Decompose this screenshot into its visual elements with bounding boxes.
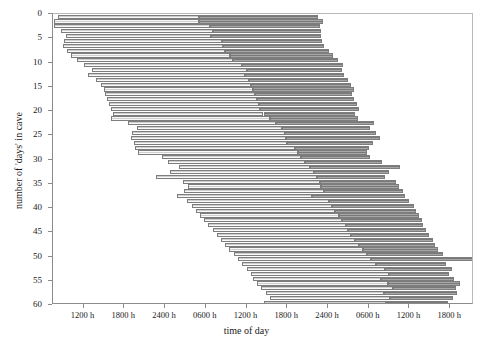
wake-segment (61, 29, 212, 33)
y-axis-tick (48, 207, 52, 208)
wake-segment (253, 277, 381, 281)
sleep-segment (332, 204, 413, 208)
y-axis-tick-label: 60 (16, 299, 42, 309)
wake-segment (107, 97, 258, 101)
x-axis-tick-label: 1800 h (419, 310, 479, 320)
y-axis-tick-label: 55 (16, 275, 42, 285)
wake-segment (105, 92, 254, 96)
y-axis-title: number of 'days' in cave (13, 61, 24, 261)
sleep-segment (385, 267, 452, 271)
wake-segment (54, 19, 199, 23)
wake-segment (88, 73, 246, 77)
x-axis-tick (327, 304, 328, 308)
x-axis-tick (164, 304, 165, 308)
y-axis-tick (48, 86, 52, 87)
wake-segment (168, 160, 305, 164)
sleep-segment (285, 131, 376, 135)
wake-segment (217, 233, 351, 237)
wake-segment (242, 262, 375, 266)
sleep-segment (230, 53, 334, 57)
wake-segment (128, 121, 276, 125)
wake-segment (247, 267, 386, 271)
sleep-segment (222, 39, 322, 43)
wake-segment (204, 218, 341, 222)
sleep-segment (264, 112, 356, 116)
wake-segment (221, 238, 355, 242)
y-axis-tick (48, 13, 52, 14)
sleep-segment (247, 68, 342, 72)
sleep-segment (287, 141, 373, 145)
wake-segment (156, 175, 318, 179)
wake-segment (187, 199, 330, 203)
sleep-segment (388, 281, 460, 285)
sleep-segment (305, 160, 382, 164)
plot-area (52, 13, 473, 304)
wake-segment (131, 136, 286, 140)
sleep-segment (355, 238, 432, 242)
wake-segment (64, 39, 222, 43)
y-axis-tick (48, 62, 52, 63)
sleep-segment (251, 83, 351, 87)
wake-segment (238, 257, 371, 261)
sleep-segment (329, 199, 409, 203)
wake-segment (63, 44, 223, 48)
sleep-segment (310, 165, 400, 169)
sleep-segment (371, 257, 473, 261)
sleep-segment (381, 277, 454, 281)
sleep-segment (233, 58, 338, 62)
sleep-segment (295, 146, 368, 150)
wake-segment (229, 247, 363, 251)
x-axis-tick (286, 304, 287, 308)
x-axis-title: time of day (0, 325, 493, 336)
wake-segment (183, 180, 320, 184)
sleep-segment (298, 150, 367, 154)
x-axis-tick (205, 304, 206, 308)
actogram-figure: 1200 h1800 h2400 h0600 h1200 h1800 h2400… (0, 0, 493, 344)
y-axis-tick (48, 280, 52, 281)
sleep-segment (210, 24, 320, 28)
sleep-segment (260, 107, 359, 111)
sleep-segment (255, 92, 353, 96)
y-axis-tick (48, 304, 52, 305)
sleep-segment (359, 243, 435, 247)
wake-segment (270, 296, 391, 300)
sleep-segment (253, 87, 353, 91)
wake-segment (192, 204, 332, 208)
sleep-segment (393, 286, 455, 290)
sleep-segment (249, 78, 349, 82)
wake-segment (109, 102, 258, 106)
x-axis-tick (368, 304, 369, 308)
wake-segment (71, 53, 229, 57)
wake-segment (101, 83, 250, 87)
y-axis-tick (48, 134, 52, 135)
wake-segment (132, 131, 284, 135)
sleep-segment (314, 170, 389, 174)
sleep-segment (199, 15, 318, 19)
sleep-segment (376, 262, 447, 266)
sleep-segment (301, 155, 370, 159)
sleep-segment (346, 223, 423, 227)
wake-segment (58, 15, 199, 19)
wake-segment (257, 281, 387, 285)
wake-segment (179, 165, 311, 169)
sleep-segment (245, 73, 344, 77)
x-axis-tick (449, 304, 450, 308)
y-axis-tick (48, 110, 52, 111)
wake-segment (225, 243, 359, 247)
sleep-segment (342, 218, 422, 222)
wake-segment (200, 213, 339, 217)
y-axis-tick-label: 0 (16, 8, 42, 18)
x-axis-tick (123, 304, 124, 308)
wake-segment (170, 170, 314, 174)
sleep-segment (348, 228, 425, 232)
sleep-segment (321, 184, 398, 188)
sleep-segment (312, 194, 406, 198)
y-axis-tick (48, 183, 52, 184)
wake-segment (251, 272, 390, 276)
wake-segment (66, 34, 211, 38)
sleep-segment (257, 97, 354, 101)
wake-segment (188, 184, 321, 188)
x-axis-tick (83, 304, 84, 308)
wake-segment (67, 49, 225, 53)
wake-segment (138, 150, 298, 154)
